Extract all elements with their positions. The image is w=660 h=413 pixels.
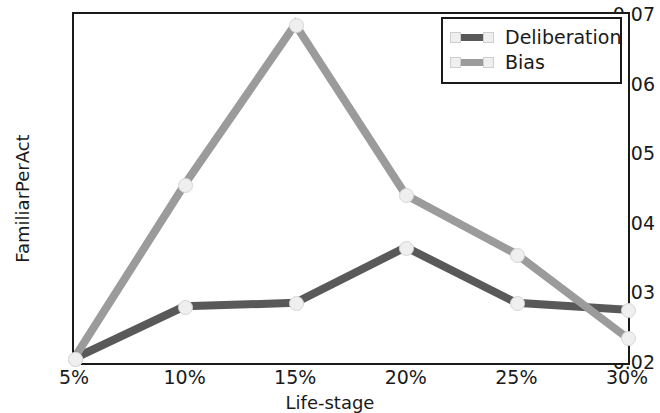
legend-color-swatch — [452, 34, 492, 41]
legend: DeliberationBias — [441, 17, 622, 84]
data-point-marker — [621, 331, 636, 346]
data-point-marker — [399, 241, 414, 256]
legend-marker-icon — [483, 32, 494, 43]
legend-color-swatch — [452, 59, 492, 66]
line-chart-figure: 0.020.030.040.050.060.07 FamiliarPerAct … — [0, 0, 660, 413]
x-axis-tick-label: 30% — [606, 368, 648, 387]
data-point-marker — [178, 300, 193, 315]
legend-marker-icon — [450, 57, 461, 68]
legend-marker-icon — [483, 57, 494, 68]
x-axis-tick-label: 10% — [163, 368, 205, 387]
legend-label: Bias — [505, 53, 545, 72]
data-point-marker — [289, 296, 304, 311]
legend-marker-icon — [450, 32, 461, 43]
data-point-marker — [68, 352, 83, 367]
x-axis-title: Life-stage — [0, 392, 660, 413]
legend-item[interactable]: Bias — [452, 50, 611, 75]
y-axis-title: FamiliarPerAct — [12, 99, 33, 299]
x-axis-tick-label: 25% — [495, 368, 537, 387]
data-point-marker — [510, 248, 525, 263]
x-axis-tick-label: 20% — [385, 368, 427, 387]
legend-label: Deliberation — [505, 28, 621, 47]
data-point-marker — [289, 18, 304, 33]
x-axis-tick-label: 15% — [274, 368, 316, 387]
legend-item[interactable]: Deliberation — [452, 25, 611, 50]
data-point-marker — [621, 303, 636, 318]
series-line — [74, 247, 627, 358]
x-axis-tick-label: 5% — [59, 368, 89, 387]
